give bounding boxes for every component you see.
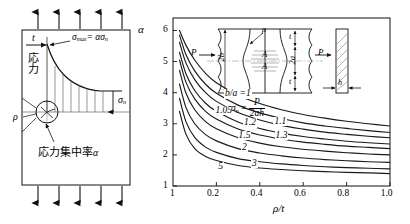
inset-thickness-bottom-label: t	[289, 78, 291, 86]
left-diagram-panel: t 応力 σmax= ασn σn ρ 応力集中率α	[0, 0, 155, 224]
formula-fraction: P 2ah	[249, 98, 265, 118]
x-axis-ticks	[216, 182, 390, 186]
inset-section-top-label: A	[262, 50, 267, 59]
curve-label-5: 5	[217, 162, 224, 172]
curve-label-1.2: 1.2	[243, 118, 257, 128]
x-tick-label-0.6: 0.6	[294, 189, 306, 199]
x-tick-label-0.2: 0.2	[207, 189, 219, 199]
top-load-arrows	[38, 12, 122, 29]
chart-panel: α ρ/t 0.20.40.60.81.01 123456 b/a =11.05…	[155, 0, 410, 224]
y-tick-label-1: 1	[163, 181, 168, 191]
x-tick-label-0.8: 0.8	[337, 189, 349, 199]
concentration-leader	[46, 124, 54, 142]
curve-label-2: 2	[241, 143, 248, 153]
stress-distribution-curve	[47, 44, 122, 91]
y-tick-label-5: 5	[163, 57, 168, 67]
x-axis-label: ρ/t	[273, 203, 284, 214]
x-axis-origin-label: 1	[170, 189, 175, 199]
sigma-max-subscript: max	[77, 36, 87, 42]
x-tick-label-0.4: 0.4	[251, 189, 263, 199]
curve-label-1.5: 1.5	[238, 131, 252, 141]
chart-svg	[155, 0, 410, 224]
sigma-max-rhs-subscript: n	[105, 36, 108, 42]
stress-concentration-symbol: α	[93, 147, 98, 158]
inset-nominal-stress-formula: σn = P 2ah	[231, 98, 265, 118]
inset-plate-thickness-label: h	[338, 79, 342, 87]
inset-section-bottom-label: A	[262, 62, 267, 71]
formula-denominator: 2ah	[249, 109, 265, 119]
formula-equals: =	[241, 103, 246, 113]
x-tick-label-1.0: 1.0	[381, 189, 393, 199]
stress-vertical-label: 応力	[27, 52, 38, 74]
inset-width-label: 2b	[217, 53, 226, 62]
curve-label-1.3: 1.3	[275, 131, 289, 141]
stress-concentration-label: 応力集中率α	[38, 147, 98, 158]
formula-sigma-subscript: n	[236, 108, 239, 114]
bottom-load-arrows	[38, 186, 122, 203]
figure-root: t 応力 σmax= ασn σn ρ 応力集中率α	[0, 0, 410, 224]
inset-load-left-label: P	[191, 48, 197, 57]
y-tick-label-4: 4	[163, 88, 168, 98]
thickness-label: t	[32, 33, 35, 43]
sigma-max-label: σmax= ασn	[72, 33, 108, 43]
sigma-max-leader	[50, 41, 70, 45]
sigma-n-label: σn	[118, 95, 126, 106]
curve-label-3: 3	[251, 159, 258, 169]
inset-load-right-label: P	[318, 48, 324, 57]
stress-concentration-text: 応力集中率	[38, 146, 93, 159]
rho-leader	[23, 114, 36, 117]
y-axis-ticks	[173, 30, 177, 186]
y-tick-label-3: 3	[163, 119, 168, 129]
inset-height-label: 2a	[288, 56, 297, 65]
sigma-n-subscript: n	[123, 98, 126, 105]
y-axis-label: α	[138, 24, 144, 35]
sigma-max-rhs: = ασ	[86, 32, 104, 42]
curve-label-1.1: 1.1	[273, 117, 287, 127]
inset-notch-radius-label: ρ	[262, 25, 266, 34]
y-tick-label-2: 2	[163, 150, 168, 160]
y-tick-label-6: 6	[163, 25, 168, 35]
rho-label: ρ	[13, 112, 18, 122]
notch-root-detail	[22, 98, 58, 132]
curve-b-a---1	[180, 30, 390, 126]
inset-thickness-top-label: t	[289, 33, 291, 41]
